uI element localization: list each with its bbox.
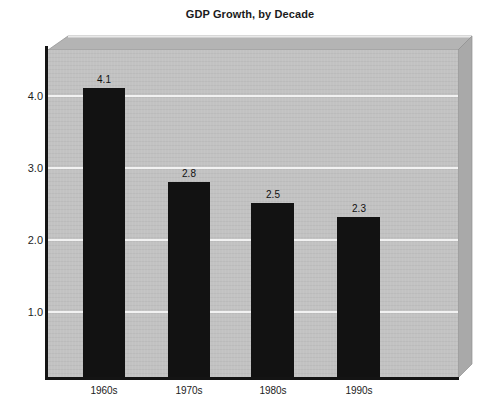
x-tick-label-1970s: 1970s [175, 385, 202, 396]
plot-area [48, 50, 458, 378]
chart-title: GDP Growth, by Decade [0, 8, 500, 20]
x-tick-label-1990s: 1990s [345, 385, 372, 396]
y-tick-label-3: 3.0 [3, 162, 43, 174]
bar-1990s [337, 217, 380, 378]
y-tick-label-2: 2.0 [3, 234, 43, 246]
bar-value-label-1990s: 2.3 [352, 203, 366, 214]
bar-1970s [168, 182, 210, 378]
x-axis-line [45, 377, 459, 380]
bar-value-label-1960s: 4.1 [97, 74, 111, 85]
y-tick-label-4: 4.0 [3, 90, 43, 102]
y-axis-line [45, 46, 48, 380]
x-tick-label-1960s: 1960s [90, 385, 117, 396]
bar-1960s [83, 88, 125, 378]
chart-3d-top-face [48, 36, 472, 50]
x-tick-label-1980s: 1980s [259, 385, 286, 396]
bar-value-label-1980s: 2.5 [266, 189, 280, 200]
chart-3d-right-face [458, 36, 472, 378]
y-tick-label-1: 1.0 [3, 306, 43, 318]
chart-container: GDP Growth, by Decade 4.0 3.0 2.0 1.0 4.… [0, 0, 500, 410]
bar-value-label-1970s: 2.8 [182, 168, 196, 179]
y-axis-labels: 4.0 3.0 2.0 1.0 [0, 0, 43, 410]
bar-1980s [251, 203, 294, 378]
